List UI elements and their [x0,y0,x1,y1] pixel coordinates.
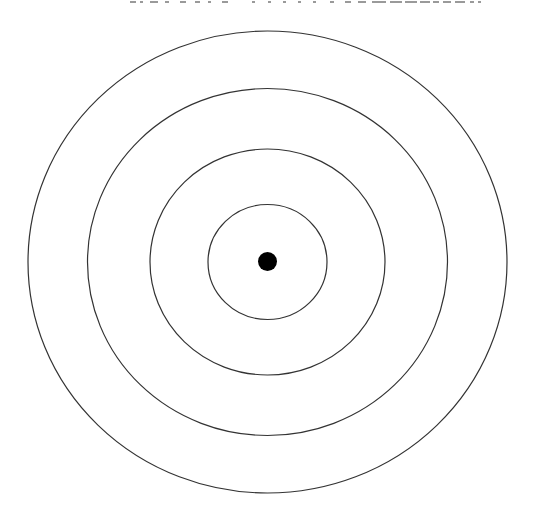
center-dot [258,252,277,271]
concentric-circles-diagram [0,0,537,516]
